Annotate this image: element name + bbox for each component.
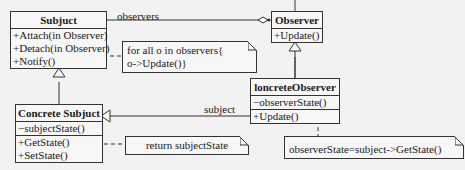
note-get-state: return subjectState xyxy=(125,136,249,155)
class-observer[interactable]: Observer +Update() xyxy=(271,11,323,43)
note-update: observerState=subject->GetState() xyxy=(284,136,464,159)
note-fold-icon xyxy=(455,136,464,145)
association-label-observers: observers xyxy=(117,10,159,22)
class-name: Concrete Subjuct xyxy=(16,105,102,122)
attributes-section: −subjectState() xyxy=(16,122,102,136)
aggregation-diamond-icon xyxy=(258,17,268,23)
note-fold-icon xyxy=(248,41,257,50)
operations-section: +Update() xyxy=(251,110,339,123)
operations-section: +GetState() +SetState() xyxy=(16,136,102,162)
attribute-observer-state: −observerState() xyxy=(253,96,337,109)
attribute-subject-state: −subjectState() xyxy=(18,122,100,135)
class-concrete-subject[interactable]: Concrete Subjuct −subjectState() +GetSta… xyxy=(15,104,103,163)
attributes-section: −observerState() xyxy=(251,96,339,110)
note-line: observerState=subject->GetState() xyxy=(289,139,459,156)
generalization-arrow-icon xyxy=(289,42,301,51)
class-subject[interactable]: Subjuct +Attach(in Observer) +Detach(in … xyxy=(10,11,107,69)
operation-update: +Update() xyxy=(274,29,320,42)
class-concrete-observer[interactable]: loncreteObserver −observerState() +Updat… xyxy=(250,78,340,124)
association-label-subject: subject xyxy=(204,103,235,115)
note-line: o->Update()} xyxy=(127,57,252,70)
class-name: loncreteObserver xyxy=(251,79,339,96)
operation-notify: +Notify() xyxy=(13,55,104,68)
uml-diagram: Subjuct +Attach(in Observer) +Detach(in … xyxy=(0,0,465,170)
note-fold-icon xyxy=(240,136,249,145)
operation-update: +Update() xyxy=(253,110,337,123)
operation-attach: +Attach(in Observer) xyxy=(13,29,104,42)
operations-section: +Update() xyxy=(272,29,322,42)
operation-set-state: +SetState() xyxy=(18,149,100,162)
operation-detach: +Detach(in Observer) xyxy=(13,42,104,55)
operations-section: +Attach(in Observer) +Detach(in Observer… xyxy=(11,29,106,68)
operation-get-state: +GetState() xyxy=(18,136,100,149)
class-name: Subjuct xyxy=(11,12,106,29)
note-notify: for all o in observers{ o->Update()} xyxy=(122,41,257,73)
note-line: return subjectState xyxy=(130,139,244,152)
class-name: Observer xyxy=(272,12,322,29)
note-line: for all o in observers{ xyxy=(127,44,252,57)
generalization-arrow-icon xyxy=(53,68,65,77)
